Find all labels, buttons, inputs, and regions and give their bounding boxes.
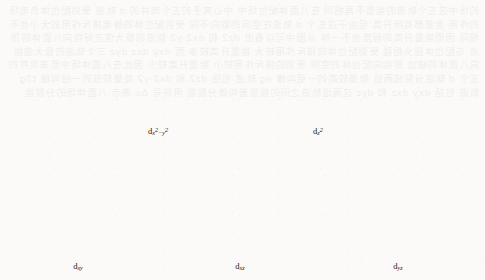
orbital-label-dx2-y2: dx2−y2 xyxy=(148,126,168,136)
orbital-diagram-dyz: z y x xyxy=(398,205,399,206)
z-axis-label: z xyxy=(241,204,242,205)
z-axis-label: z xyxy=(319,69,320,70)
orbital-label-dxy: dxy xyxy=(73,261,83,271)
axis-labels: z y x xyxy=(399,204,400,205)
axis-labels: z y x xyxy=(79,204,80,205)
orbital-diagram-dxy: z y x xyxy=(78,205,79,206)
axis-labels: z y x xyxy=(319,69,320,70)
z-axis-label: z xyxy=(79,204,80,205)
y-axis-label: y xyxy=(241,204,242,205)
orbital-label-dz2: dz2 xyxy=(313,126,323,136)
orbital-diagram-dz2: z y x xyxy=(318,70,319,71)
d-orbital-octahedral-field-figure: z y x dx2−y2 xyxy=(0,0,485,280)
y-axis-label: y xyxy=(399,204,400,205)
orbital-label-dyz: dyz xyxy=(393,261,402,271)
z-axis-label: z xyxy=(399,204,400,205)
orbital-diagram-dxz: z y x xyxy=(240,205,241,206)
y-axis-label: y xyxy=(319,69,320,70)
orbital-diagram-dx2-y2: z y x xyxy=(158,70,159,71)
y-axis-label: y xyxy=(79,204,80,205)
orbital-label-dxz: dxz xyxy=(235,261,244,271)
y-axis-label: y xyxy=(159,69,160,70)
axis-labels: z y x xyxy=(241,204,242,205)
z-axis-label: z xyxy=(159,69,160,70)
axis-labels: z y x xyxy=(159,69,160,70)
